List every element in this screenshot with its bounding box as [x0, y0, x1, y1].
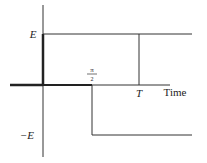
waveform-diagram: E −E π 2 T Time: [0, 0, 207, 163]
label-pi: π: [90, 66, 94, 74]
label-e-positive: E: [29, 28, 37, 40]
label-time-axis: Time: [164, 86, 187, 98]
label-period: T: [136, 87, 143, 99]
label-e-negative: −E: [20, 129, 34, 141]
label-two: 2: [91, 76, 94, 82]
